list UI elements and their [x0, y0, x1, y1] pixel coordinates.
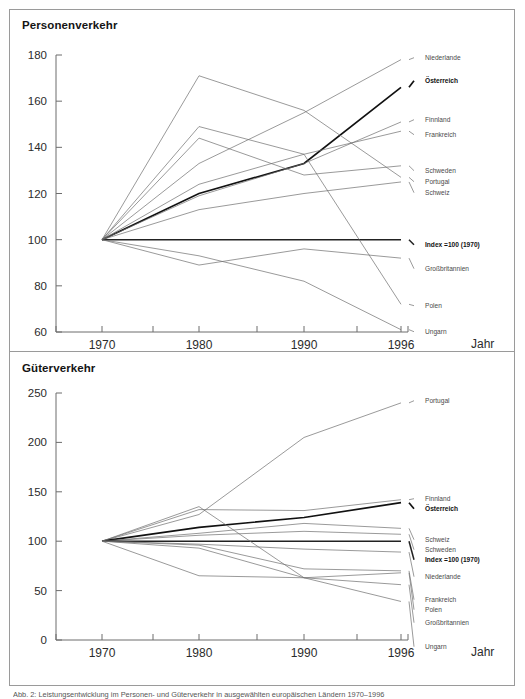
series-label: Polen	[425, 606, 442, 613]
y-tick-label: 150	[28, 486, 47, 498]
x-tick-labels-group: 1970198019901996	[89, 646, 415, 660]
x-tick-label: 1970	[89, 646, 116, 660]
y-tick-label: 120	[28, 188, 47, 200]
series-label: Großbritannien	[425, 265, 469, 272]
x-axis-name: Jahr	[471, 645, 494, 659]
series-label: Index =100 (1970)	[425, 556, 480, 564]
series-line	[102, 507, 401, 578]
series-label: Österreich	[425, 504, 458, 512]
series-line	[102, 503, 401, 542]
series-leader-line	[409, 81, 414, 88]
series-leader-line	[409, 131, 414, 135]
series-label: Portugal	[425, 397, 450, 405]
series-leader-line	[409, 177, 414, 181]
series-label: Portugal	[425, 178, 450, 186]
series-line	[102, 138, 401, 240]
x-tick-label: 1996	[388, 338, 415, 351]
x-tick-label: 1990	[291, 646, 318, 660]
series-line	[102, 403, 401, 541]
axes-group	[56, 55, 408, 332]
y-tick-label: 80	[34, 280, 47, 292]
series-leader-line	[409, 304, 414, 305]
y-tick-labels-group: 050100150200250	[28, 387, 47, 646]
panel-gueterverkehr: Güterverkehr 050100150200250 19701980199…	[0, 352, 525, 686]
y-tick-label: 60	[34, 326, 47, 338]
series-labels-group: NiederlandeÖsterreichFinnlandFrankreichS…	[409, 54, 480, 336]
y-tick-label: 200	[28, 436, 47, 448]
x-tick-labels-group: 1970198019901996	[89, 338, 415, 351]
series-label: Schweden	[425, 546, 456, 553]
series-label: Ungarn	[425, 328, 447, 336]
y-tick-label: 0	[41, 634, 47, 646]
series-line	[102, 531, 401, 541]
series-label: Frankreich	[425, 596, 456, 603]
chart-personenverkehr: 6080100120140160180 1970198019901996 Nie…	[0, 9, 525, 351]
panel-personenverkehr: Personenverkehr 6080100120140160180 1970…	[0, 9, 525, 351]
series-label: Index =100 (1970)	[425, 241, 480, 249]
series-lines-group	[102, 403, 401, 602]
y-tick-labels-group: 6080100120140160180	[28, 49, 47, 338]
series-label: Ungarn	[425, 643, 447, 651]
y-tick-label: 50	[34, 585, 47, 597]
series-leader-line	[409, 330, 414, 332]
series-line	[102, 541, 401, 571]
x-tick-label: 1996	[388, 646, 415, 660]
series-label: Schweden	[425, 167, 456, 174]
series-label: Niederlande	[425, 54, 461, 61]
series-line	[102, 60, 401, 240]
series-label: Finnland	[425, 495, 451, 502]
series-label: Frankreich	[425, 131, 456, 138]
axes-group	[56, 393, 408, 640]
series-leader-line	[409, 601, 414, 646]
series-leader-line	[409, 240, 414, 245]
y-tick-label: 100	[28, 535, 47, 547]
series-label: Österreich	[425, 76, 458, 84]
series-leader-line	[409, 182, 414, 193]
figure-caption: Abb. 2: Leistungsentwicklung im Personen…	[13, 690, 513, 699]
series-leader-line	[409, 166, 414, 171]
y-tick-label: 100	[28, 234, 47, 246]
series-leader-line	[409, 571, 414, 600]
series-leader-line	[409, 120, 414, 122]
series-leader-line	[409, 499, 414, 500]
x-tick-label: 1980	[186, 646, 213, 660]
series-line	[102, 541, 401, 601]
series-leader-line	[409, 503, 414, 509]
series-labels-group: PortugalFinnlandÖsterreichSchweizSchwede…	[409, 397, 480, 651]
series-line	[102, 240, 401, 265]
series-label: Großbritannien	[425, 619, 469, 626]
series-leader-line	[409, 528, 414, 539]
series-label: Niederlande	[425, 573, 461, 580]
series-line	[102, 131, 401, 239]
series-line	[102, 127, 401, 305]
x-tick-label: 1990	[291, 338, 318, 351]
x-tick-label: 1980	[186, 338, 213, 351]
series-leader-line	[409, 258, 414, 269]
y-tick-label: 140	[28, 141, 47, 153]
x-axis-name: Jahr	[471, 337, 494, 351]
series-lines-group	[102, 60, 401, 330]
y-tick-label: 160	[28, 95, 47, 107]
series-label: Schweiz	[425, 536, 450, 543]
series-line	[102, 240, 401, 330]
x-tick-label: 1970	[89, 338, 116, 351]
series-label: Schweiz	[425, 189, 450, 196]
figure-page: Personenverkehr 6080100120140160180 1970…	[0, 0, 525, 699]
series-label: Polen	[425, 302, 442, 309]
y-tick-label: 180	[28, 49, 47, 61]
series-leader-line	[409, 58, 414, 60]
series-line	[102, 182, 401, 240]
series-label: Finnland	[425, 116, 451, 123]
chart-gueterverkehr: 050100150200250 1970198019901996 Portuga…	[0, 352, 525, 686]
series-line	[102, 122, 401, 240]
series-leader-line	[409, 401, 414, 403]
y-tick-label: 250	[28, 387, 47, 399]
series-line	[102, 76, 401, 240]
